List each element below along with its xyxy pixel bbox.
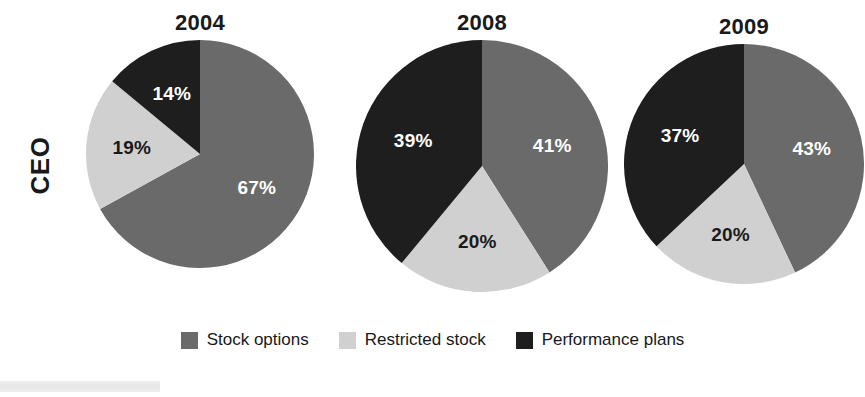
legend-swatch-icon	[181, 332, 198, 349]
row-label-text: CEO	[26, 136, 57, 194]
legend-swatch-icon	[516, 332, 533, 349]
pie-panel-2009: 200943%20%37%	[624, 14, 864, 284]
pie-chart-figure: CEO 200467%19%14%200841%20%39%200943%20%…	[0, 0, 865, 397]
legend-label: Restricted stock	[365, 330, 486, 350]
pie-2008: 41%20%39%	[356, 40, 608, 292]
pie-title-2004: 2004	[86, 10, 314, 36]
legend-item-stock-options[interactable]: Stock options	[181, 330, 309, 350]
pie-2009: 43%20%37%	[624, 44, 864, 284]
legend-item-performance-plans[interactable]: Performance plans	[516, 330, 685, 350]
pie-title-2008: 2008	[356, 10, 608, 36]
chart-legend: Stock optionsRestricted stockPerformance…	[0, 330, 865, 350]
row-label-ceo: CEO	[6, 120, 76, 210]
pie-title-2009: 2009	[624, 14, 864, 40]
scan-artifact-bar	[0, 381, 160, 392]
legend-item-restricted-stock[interactable]: Restricted stock	[339, 330, 486, 350]
pie-panel-2004: 200467%19%14%	[86, 10, 314, 268]
legend-swatch-icon	[339, 332, 356, 349]
pie-panel-2008: 200841%20%39%	[356, 10, 608, 292]
legend-label: Performance plans	[542, 330, 685, 350]
pie-2004: 67%19%14%	[86, 40, 314, 268]
legend-label: Stock options	[207, 330, 309, 350]
